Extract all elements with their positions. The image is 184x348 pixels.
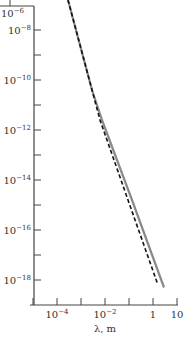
- series-solid-gray: [68, 0, 164, 288]
- corner-tick-label: 10−6: [1, 7, 25, 19]
- x-axis-title: λ, m: [94, 323, 117, 334]
- y-tick-label: 10−12: [3, 124, 31, 136]
- x-tick-label: 10−2: [93, 308, 116, 320]
- x-tick-label: 10: [171, 309, 184, 320]
- x-ticks: 10−410−2110: [33, 298, 183, 320]
- x-tick-label: 1: [150, 309, 156, 320]
- y-ticks: 10−810−1010−1210−1410−1610−18: [3, 24, 41, 286]
- y-tick-label: 10−10: [3, 74, 31, 86]
- y-tick-label: 10−16: [3, 224, 31, 236]
- y-tick-label: 10−8: [8, 24, 31, 36]
- series-dashed-black: [68, 0, 157, 283]
- x-tick-label: 10−4: [45, 308, 69, 320]
- y-tick-label: 10−18: [3, 274, 31, 286]
- corner-frame: 10−6: [0, 0, 34, 19]
- y-tick-label: 10−14: [3, 174, 31, 186]
- chart: 10−6 10−810−1010−1210−1410−1610−18 10−41…: [0, 0, 184, 348]
- series-group: [68, 0, 164, 288]
